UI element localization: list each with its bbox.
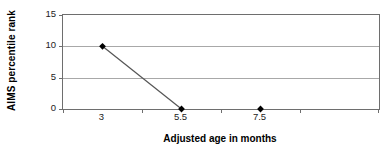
y-axis-title-text: AIMS percentile rank bbox=[6, 10, 17, 111]
x-tick-label: 7.5 bbox=[220, 112, 299, 122]
plot-area bbox=[62, 14, 380, 110]
y-tick-label: 10 bbox=[0, 40, 56, 50]
x-tick-mark bbox=[300, 109, 301, 113]
y-tick-label: 15 bbox=[0, 9, 56, 19]
x-tick-mark bbox=[378, 109, 379, 113]
y-tick-label: 5 bbox=[0, 72, 56, 82]
chart-figure: AIMS percentile rank 051015 35.57.5 Adju… bbox=[0, 0, 391, 156]
x-tick-label: 3 bbox=[62, 112, 141, 122]
y-tick-label: 0 bbox=[0, 103, 56, 113]
data-series bbox=[63, 15, 379, 109]
x-axis-title: Adjusted age in months bbox=[62, 133, 378, 144]
series-line-segment bbox=[103, 46, 182, 109]
x-tick-label: 5.5 bbox=[141, 112, 220, 122]
